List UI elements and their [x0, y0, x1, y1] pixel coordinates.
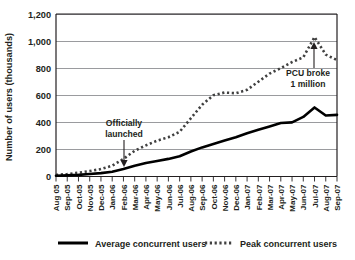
y-tick-label: 0 [46, 172, 51, 182]
y-axis-tick-labels: 1,200 1,000 800 600 400 200 0 [28, 10, 51, 182]
chart-container: Number of users (thousands) 1,200 1,000 … [0, 0, 355, 260]
users-over-time-line-chart: Number of users (thousands) 1,200 1,000 … [0, 0, 355, 260]
x-tick-label: Aug 05 [52, 184, 61, 211]
x-tick-label: May-06 [153, 184, 162, 212]
x-tick-label: Jun-06 [165, 184, 174, 210]
x-tick-label: Dec-05 [97, 184, 106, 211]
x-tick-label: Jun-07 [299, 184, 308, 210]
annotation-line: 1 million [291, 79, 326, 89]
x-tick-label: Sep-07 [333, 184, 342, 211]
x-tick-label: Sep-05 [63, 184, 72, 211]
x-tick-label: Jan-07 [243, 184, 252, 210]
y-tick-label: 1,200 [28, 10, 51, 20]
series-average-concurrent-users [56, 107, 337, 175]
x-axis-ticks [56, 177, 337, 182]
x-tick-label: Aug-07 [322, 184, 331, 212]
x-tick-label: Dec-06 [232, 184, 241, 211]
y-tick-label: 200 [36, 145, 51, 155]
x-tick-label: Nov-05 [86, 184, 95, 211]
arrowhead-icon [120, 160, 127, 167]
legend-label-average-concurrent-users: Average concurrent users [95, 239, 206, 249]
annotation-line: PCU broke [286, 68, 330, 78]
x-tick-label: Mar-06 [131, 184, 140, 210]
x-tick-label: May-07 [288, 184, 297, 212]
annotation-officially-launched: Officially launched [105, 118, 143, 167]
x-tick-label: Nov-06 [221, 184, 230, 211]
x-tick-label: Jan-06 [108, 184, 117, 210]
x-axis-tick-labels: Aug 05Sep-05Oct-05Nov-05Dec-05Jan-06Feb-… [52, 184, 342, 212]
x-tick-label: Feb-07 [255, 184, 264, 210]
y-tick-label: 1,000 [28, 37, 51, 47]
x-tick-label: Aug-06 [187, 184, 196, 212]
x-tick-label: Jul-06 [176, 184, 185, 208]
annotation-pcu-broke-1-million: PCU broke 1 million [286, 42, 330, 89]
annotation-line: Officially [106, 118, 143, 128]
series-peak-concurrent-users [56, 37, 337, 175]
x-tick-label: Apr-07 [277, 184, 286, 210]
data-series [56, 37, 337, 176]
x-tick-label: Sep-06 [198, 184, 207, 211]
x-tick-label: Oct-06 [210, 184, 219, 209]
chart-legend: Average concurrent users Peak concurrent… [58, 239, 337, 249]
y-axis-title: Number of users (thousands) [4, 33, 14, 161]
x-tick-label: Mar-07 [266, 184, 275, 210]
y-tick-label: 800 [36, 64, 51, 74]
y-tick-label: 600 [36, 91, 51, 101]
x-tick-label: Jul-07 [311, 184, 320, 208]
y-tick-label: 400 [36, 118, 51, 128]
x-tick-label: Oct-05 [75, 184, 84, 209]
x-tick-label: Feb-06 [120, 184, 129, 210]
annotation-line: launched [105, 129, 143, 139]
legend-label-peak-concurrent-users: Peak concurrent users [240, 239, 337, 249]
x-tick-label: Apr-06 [142, 184, 151, 210]
